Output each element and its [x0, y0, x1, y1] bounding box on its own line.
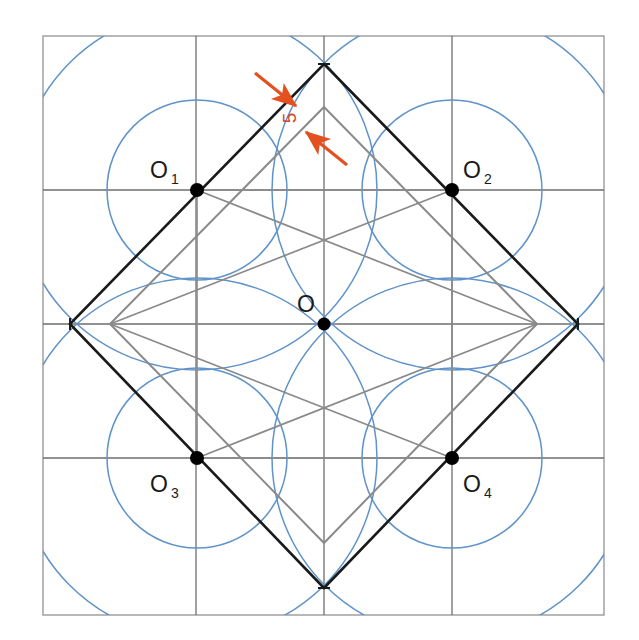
label-o4-subscript: 4 — [484, 485, 492, 501]
dimension-arrow-lower — [306, 132, 347, 165]
gray-diag-a — [110, 190, 452, 324]
gray-diag-b — [197, 190, 537, 324]
dimension-arrow-upper — [255, 73, 296, 106]
label-o-center: O — [297, 291, 315, 317]
label-o4: O — [463, 471, 481, 497]
geometry-diagram: 5 O O 1 O 2 O 3 O 4 — [0, 0, 639, 640]
dimension-label: 5 — [279, 113, 300, 124]
dot-o3 — [190, 451, 204, 465]
gray-diag-c — [110, 324, 452, 458]
label-o2-subscript: 2 — [484, 171, 492, 187]
gray-diag-d — [197, 324, 537, 458]
label-o1: O — [150, 157, 168, 183]
dot-o4 — [445, 451, 459, 465]
dot-center-o — [318, 318, 331, 331]
label-o2: O — [463, 157, 481, 183]
label-o1-subscript: 1 — [171, 171, 179, 187]
dot-o2 — [445, 183, 459, 197]
label-o3-subscript: 3 — [171, 485, 179, 501]
dot-o1 — [190, 183, 204, 197]
label-o3: O — [150, 471, 168, 497]
diagram-canvas: 5 O O 1 O 2 O 3 O 4 — [0, 0, 639, 640]
